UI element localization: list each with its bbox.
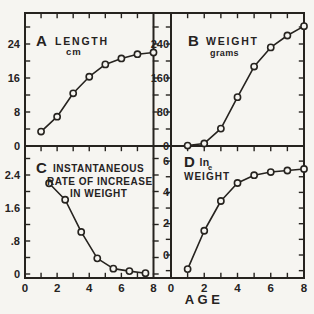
svg-text:RATE OF INCREASE: RATE OF INCREASE — [47, 176, 153, 187]
svg-text:0: 0 — [168, 282, 174, 294]
svg-text:2.4: 2.4 — [5, 169, 21, 181]
svg-text:0: 0 — [22, 282, 28, 294]
svg-text:0: 0 — [163, 249, 169, 261]
four-panel-growth-figure: 0816240801602400.81.62.402460246802468AG… — [0, 0, 314, 314]
data-point — [251, 63, 257, 69]
svg-text:2: 2 — [163, 217, 169, 229]
svg-text:IN WEIGHT: IN WEIGHT — [70, 188, 127, 199]
svg-text:8: 8 — [301, 282, 308, 294]
svg-text:.8: .8 — [11, 235, 20, 247]
svg-text:6: 6 — [118, 282, 124, 294]
data-point — [38, 128, 44, 134]
data-point — [218, 198, 224, 204]
svg-text:24: 24 — [8, 38, 21, 50]
svg-text:grams: grams — [210, 48, 239, 58]
svg-text:WEIGHT: WEIGHT — [184, 171, 230, 182]
data-point — [185, 142, 191, 148]
svg-text:A: A — [36, 32, 47, 49]
data-point — [54, 114, 60, 120]
data-point — [142, 270, 148, 276]
data-point — [284, 32, 290, 38]
svg-text:6: 6 — [163, 155, 169, 167]
svg-text:WEIGHT: WEIGHT — [206, 35, 259, 47]
svg-text:C: C — [36, 159, 47, 176]
svg-text:AGE: AGE — [185, 292, 224, 307]
svg-text:6: 6 — [268, 282, 274, 294]
svg-text:4: 4 — [163, 186, 170, 198]
data-point — [284, 167, 290, 173]
data-point — [251, 172, 257, 178]
svg-text:16: 16 — [8, 72, 20, 84]
data-point — [78, 229, 84, 235]
svg-text:4: 4 — [86, 282, 93, 294]
svg-text:8: 8 — [150, 282, 157, 294]
data-point — [185, 266, 191, 272]
svg-text:0: 0 — [14, 140, 20, 152]
svg-text:B: B — [188, 32, 199, 49]
svg-text:0: 0 — [14, 268, 20, 280]
data-point — [150, 49, 156, 55]
data-point — [102, 61, 108, 67]
data-point — [70, 90, 76, 96]
data-point — [268, 169, 274, 175]
data-point — [268, 44, 274, 50]
svg-text:2: 2 — [54, 282, 60, 294]
data-point — [62, 197, 68, 203]
svg-text:8: 8 — [14, 106, 20, 118]
data-point — [301, 166, 307, 172]
svg-text:4: 4 — [234, 282, 241, 294]
svg-text:cm: cm — [66, 46, 82, 57]
data-point — [234, 180, 240, 186]
svg-text:1.6: 1.6 — [5, 202, 20, 214]
data-point — [94, 255, 100, 261]
data-point — [201, 140, 207, 146]
data-point — [301, 23, 307, 29]
svg-text:D: D — [184, 153, 195, 170]
data-point — [218, 125, 224, 131]
data-point — [234, 94, 240, 100]
svg-text:80: 80 — [157, 106, 169, 118]
svg-text:INSTANTANEOUS: INSTANTANEOUS — [53, 163, 144, 174]
growth-curves-chart: 0816240801602400.81.62.402460246802468AG… — [0, 0, 314, 314]
data-point — [86, 74, 92, 80]
data-point — [118, 55, 124, 61]
data-point — [126, 268, 132, 274]
svg-text:LENGTH: LENGTH — [55, 35, 109, 47]
data-point — [110, 266, 116, 272]
data-point — [201, 228, 207, 234]
data-point — [134, 51, 140, 57]
